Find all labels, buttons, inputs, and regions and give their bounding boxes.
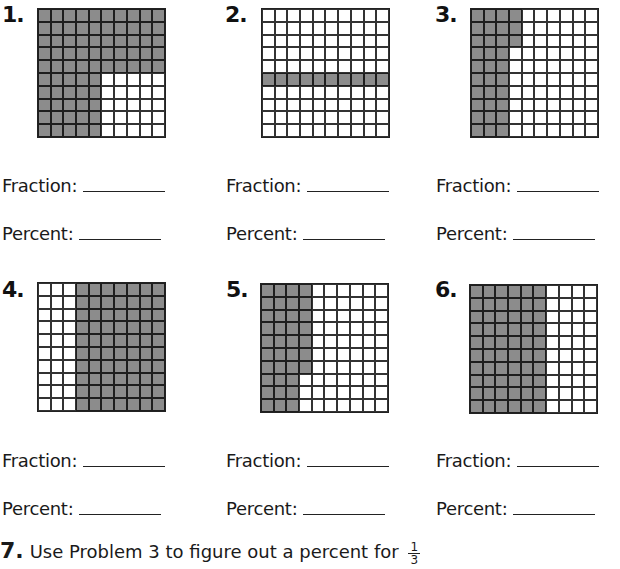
unshaded-square	[262, 47, 275, 60]
shaded-square	[152, 47, 165, 60]
unshaded-square	[351, 124, 364, 137]
unshaded-square	[364, 35, 377, 48]
shaded-square	[496, 111, 509, 124]
unshaded-square	[140, 111, 153, 124]
percent-blank[interactable]	[303, 500, 385, 515]
shaded-square	[495, 311, 508, 324]
unshaded-square	[534, 111, 547, 124]
percent-blank[interactable]	[79, 225, 161, 240]
unshaded-square	[375, 374, 388, 387]
unshaded-square	[313, 111, 326, 124]
shaded-square	[261, 348, 274, 361]
unshaded-square	[547, 60, 560, 73]
shaded-square	[127, 283, 140, 296]
fraction-blank[interactable]	[517, 452, 599, 467]
fraction-blank[interactable]	[83, 452, 165, 467]
percent-blank[interactable]	[513, 225, 595, 240]
shaded-square	[51, 124, 64, 137]
unshaded-square	[351, 86, 364, 99]
problem-number: 7.	[0, 538, 24, 563]
shaded-square	[496, 99, 509, 112]
shaded-square	[508, 298, 521, 311]
unshaded-square	[364, 22, 377, 35]
hundred-grid	[470, 8, 599, 138]
shaded-square	[470, 375, 483, 388]
shaded-square	[89, 296, 102, 309]
shaded-square	[508, 400, 521, 413]
shaded-square	[140, 321, 153, 334]
unshaded-square	[375, 399, 388, 412]
unshaded-square	[573, 86, 586, 99]
unshaded-square	[287, 60, 300, 73]
percent-label: Percent:	[226, 498, 297, 519]
unshaded-square	[275, 60, 288, 73]
unshaded-square	[559, 362, 572, 375]
unshaded-square	[140, 124, 153, 137]
unshaded-square	[114, 124, 127, 137]
shaded-square	[484, 47, 497, 60]
unshaded-square	[375, 284, 388, 297]
fraction-label: Fraction:	[226, 175, 301, 196]
unshaded-square	[299, 399, 312, 412]
shaded-square	[286, 361, 299, 374]
percent-blank[interactable]	[303, 225, 385, 240]
percent-label: Percent:	[2, 498, 73, 519]
unshaded-square	[585, 22, 598, 35]
unshaded-square	[337, 335, 350, 348]
unshaded-square	[573, 47, 586, 60]
shaded-square	[140, 373, 153, 386]
fraction-blank[interactable]	[83, 177, 165, 192]
shaded-square	[76, 60, 89, 73]
unshaded-square	[262, 9, 275, 22]
shaded-square	[533, 285, 546, 298]
shaded-square	[76, 398, 89, 411]
unshaded-square	[152, 111, 165, 124]
unshaded-square	[325, 111, 338, 124]
shaded-square	[101, 321, 114, 334]
shaded-square	[299, 348, 312, 361]
unshaded-square	[363, 310, 376, 323]
shaded-square	[483, 323, 496, 336]
shaded-square	[470, 298, 483, 311]
unshaded-square	[287, 35, 300, 48]
shaded-square	[38, 22, 51, 35]
shaded-square	[508, 375, 521, 388]
fraction-blank[interactable]	[517, 177, 599, 192]
fraction-blank[interactable]	[307, 177, 389, 192]
unshaded-square	[63, 334, 76, 347]
shaded-square	[274, 310, 287, 323]
unshaded-square	[585, 9, 598, 22]
shaded-square	[508, 336, 521, 349]
shaded-square	[114, 309, 127, 322]
shaded-square	[127, 309, 140, 322]
percent-blank[interactable]	[79, 500, 161, 515]
shaded-square	[286, 335, 299, 348]
unshaded-square	[546, 336, 559, 349]
shaded-square	[89, 35, 102, 48]
unshaded-square	[324, 374, 337, 387]
unshaded-square	[560, 47, 573, 60]
unshaded-square	[127, 86, 140, 99]
shaded-square	[483, 349, 496, 362]
fraction-blank[interactable]	[307, 452, 389, 467]
unshaded-square	[350, 335, 363, 348]
unshaded-square	[313, 47, 326, 60]
unshaded-square	[573, 60, 586, 73]
percent-blank[interactable]	[513, 500, 595, 515]
shaded-square	[509, 9, 522, 22]
unshaded-square	[350, 361, 363, 374]
unshaded-square	[63, 360, 76, 373]
shaded-square	[89, 60, 102, 73]
fraction-label: Fraction:	[2, 175, 77, 196]
shaded-square	[114, 283, 127, 296]
shaded-square	[508, 323, 521, 336]
unshaded-square	[363, 322, 376, 335]
unshaded-square	[337, 374, 350, 387]
shaded-square	[521, 400, 534, 413]
shaded-square	[471, 47, 484, 60]
unshaded-square	[313, 22, 326, 35]
unshaded-square	[324, 386, 337, 399]
shaded-square	[152, 22, 165, 35]
unshaded-square	[338, 9, 351, 22]
unshaded-square	[522, 9, 535, 22]
